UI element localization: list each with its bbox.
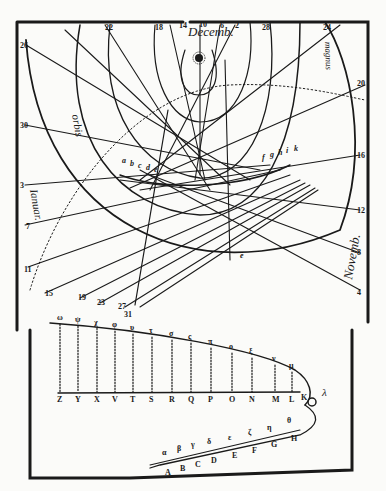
svg-text:22: 22: [105, 23, 113, 32]
svg-text:31: 31: [124, 310, 132, 319]
svg-text:12: 12: [357, 206, 365, 215]
svg-text:O: O: [229, 395, 235, 404]
svg-text:τ: τ: [149, 326, 153, 335]
label-january: Ianuar.: [28, 187, 45, 221]
sun-icon-lower: [308, 398, 316, 406]
baseline: [58, 392, 300, 393]
svg-text:6: 6: [220, 21, 224, 30]
svg-text:D: D: [211, 456, 217, 465]
svg-text:7: 7: [26, 222, 30, 231]
svg-text:Q: Q: [188, 395, 194, 404]
svg-text:24: 24: [323, 23, 331, 32]
upper-frame: [17, 22, 368, 330]
svg-text:K: K: [301, 393, 308, 402]
svg-text:16: 16: [357, 151, 365, 160]
svg-text:P: P: [208, 395, 213, 404]
svg-text:δ: δ: [207, 437, 211, 446]
dotted-verticals: [60, 324, 292, 392]
svg-text:k: k: [294, 144, 298, 153]
right-numbers: 20 16 12 8 4: [357, 79, 365, 297]
svg-text:ν: ν: [271, 354, 276, 363]
svg-text:h: h: [278, 148, 283, 157]
svg-text:ψ: ψ: [75, 315, 81, 324]
svg-text:Z: Z: [57, 395, 62, 404]
svg-text:c: c: [138, 161, 142, 170]
svg-text:α: α: [162, 448, 167, 457]
svg-text:ω: ω: [57, 313, 63, 322]
label-november: Novemb.: [340, 233, 363, 282]
astronomical-diagram: Decemb. orbis magnus Ianuar. Novemb. 22 …: [0, 0, 386, 491]
svg-text:M: M: [272, 395, 280, 404]
svg-text:26: 26: [20, 41, 28, 50]
svg-text:ο: ο: [229, 342, 233, 351]
svg-text:μ: μ: [289, 361, 294, 370]
svg-text:4: 4: [357, 288, 361, 297]
svg-text:G: G: [271, 440, 277, 449]
label-magnus: magnus: [323, 42, 334, 71]
svg-text:B: B: [180, 464, 186, 473]
svg-text:20: 20: [357, 79, 365, 88]
svg-text:η: η: [267, 423, 272, 432]
svg-text:E: E: [232, 451, 237, 460]
svg-text:R: R: [169, 395, 175, 404]
svg-text:11: 11: [24, 265, 32, 274]
svg-text:e: e: [154, 165, 158, 174]
lower-axis-letters: Z Y X V T S R Q P O N M L K: [57, 393, 308, 404]
svg-text:γ: γ: [190, 440, 195, 449]
svg-text:V: V: [112, 395, 118, 404]
svg-text:χ: χ: [93, 318, 98, 327]
svg-text:ζ: ζ: [248, 428, 252, 437]
arc-2: [108, 22, 271, 178]
svg-text:β: β: [177, 444, 181, 453]
svg-text:C: C: [195, 460, 201, 469]
svg-text:L: L: [289, 395, 294, 404]
svg-text:θ: θ: [287, 416, 291, 425]
svg-text:f: f: [262, 153, 266, 162]
svg-text:8: 8: [357, 248, 361, 257]
return-curve-2: [150, 430, 300, 465]
svg-text:a: a: [122, 156, 126, 165]
svg-text:S: S: [149, 395, 154, 404]
label-december: Decemb.: [187, 24, 234, 39]
bottom-lower-letters: A B C D E F G H: [165, 434, 298, 477]
svg-text:T: T: [130, 395, 136, 404]
svg-text:ε: ε: [228, 433, 232, 442]
svg-text:15: 15: [45, 289, 53, 298]
svg-text:30: 30: [20, 121, 28, 130]
svg-text:b: b: [130, 159, 134, 168]
svg-text:d: d: [146, 163, 151, 172]
svg-text:28: 28: [262, 23, 270, 32]
svg-text:φ: φ: [112, 320, 117, 329]
svg-text:λ: λ: [321, 386, 327, 398]
svg-text:2: 2: [235, 21, 239, 30]
svg-text:X: X: [94, 395, 100, 404]
svg-text:ς: ς: [188, 332, 192, 341]
vertical-axis-right: [225, 60, 230, 260]
svg-text:14: 14: [179, 21, 187, 30]
svg-text:π: π: [208, 337, 213, 346]
svg-text:υ: υ: [130, 323, 134, 332]
svg-text:10: 10: [199, 20, 207, 29]
svg-text:A: A: [165, 468, 171, 477]
svg-text:e: e: [240, 251, 244, 260]
svg-text:g: g: [269, 150, 274, 159]
svg-text:H: H: [291, 434, 298, 443]
svg-text:18: 18: [155, 23, 163, 32]
svg-text:Y: Y: [75, 395, 81, 404]
svg-text:19: 19: [78, 293, 86, 302]
svg-text:N: N: [249, 395, 255, 404]
svg-text:i: i: [286, 146, 289, 155]
sun-icon: [193, 52, 205, 64]
svg-text:σ: σ: [169, 329, 174, 338]
svg-text:3: 3: [20, 181, 24, 190]
svg-text:23: 23: [97, 298, 105, 307]
svg-text:ξ: ξ: [249, 347, 253, 356]
svg-text:F: F: [252, 446, 257, 455]
